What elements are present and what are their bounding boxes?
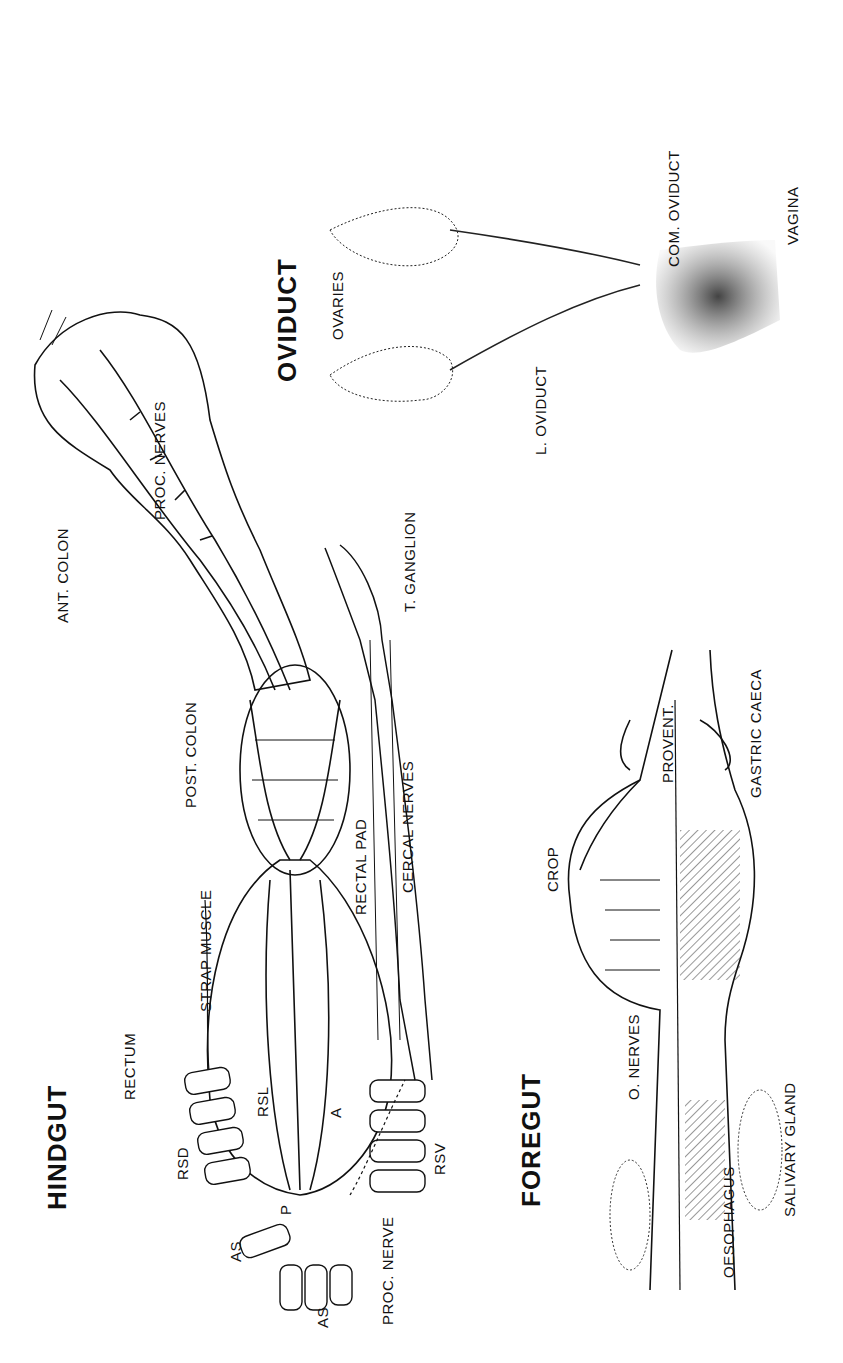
rectum-label: RECTUM bbox=[122, 1033, 137, 1100]
ovaries-label: OVARIES bbox=[330, 271, 345, 340]
post-colon-drawing bbox=[240, 665, 350, 875]
a-label: A bbox=[328, 1107, 343, 1118]
proc-nerve-label: PROC. NERVE bbox=[380, 1216, 395, 1325]
gastric-caeca-label: GASTRIC CAECA bbox=[748, 669, 763, 798]
cercal-nerves-label: CERCAL NERVES bbox=[400, 761, 415, 893]
oviduct-drawing bbox=[330, 208, 640, 402]
strap-muscle-label: STRAP MUSCLE bbox=[198, 890, 213, 1012]
oviduct-title: OVIDUCT bbox=[274, 258, 300, 382]
p-label: P bbox=[278, 1204, 293, 1215]
provent-label: PROVENT. bbox=[660, 704, 675, 783]
rectal-pad-label: RECTAL PAD bbox=[353, 819, 368, 915]
post-colon-label: POST. COLON bbox=[183, 702, 198, 808]
com-oviduct-label: COM. OVIDUCT bbox=[666, 150, 681, 267]
rsv-label: RSV bbox=[432, 1143, 447, 1175]
o-nerves-label: O. NERVES bbox=[626, 1014, 641, 1100]
rsd-label: RSD bbox=[175, 1147, 190, 1180]
salivary-gland-label: SALIVARY GLAND bbox=[782, 1082, 797, 1217]
as-label-1: AS bbox=[228, 1241, 243, 1262]
proc-nerves-label: PROC. NERVES bbox=[152, 401, 167, 520]
drawing-layer bbox=[0, 0, 843, 1363]
as-label-2: AS bbox=[315, 1307, 330, 1328]
crop-label: CROP bbox=[545, 847, 560, 892]
l-oviduct-label: L. OVIDUCT bbox=[533, 366, 548, 455]
vagina-label: VAGINA bbox=[785, 186, 800, 245]
t-ganglion-label: T. GANGLION bbox=[402, 511, 417, 612]
ant-colon-drawing bbox=[34, 310, 310, 690]
anatomy-figure: HINDGUT RECTUM RSD RSL AS AS P A RSV PRO… bbox=[0, 0, 843, 1363]
ant-colon-label: ANT. COLON bbox=[55, 528, 70, 623]
rsl-label: RSL bbox=[255, 1086, 270, 1117]
foregut-title: FOREGUT bbox=[518, 1073, 544, 1207]
hindgut-title: HINDGUT bbox=[44, 1085, 70, 1210]
oesophagus-label: OESOPHAGUS bbox=[721, 1166, 736, 1278]
